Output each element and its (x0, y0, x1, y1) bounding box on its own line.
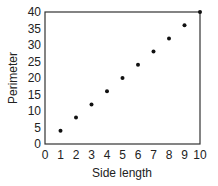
x-tick-label: 0 (42, 148, 49, 162)
data-point (59, 129, 63, 133)
scatter-chart: 0510152025303540 012345678910 Perimeter … (0, 0, 218, 186)
x-tick-label: 4 (104, 148, 111, 162)
y-tick-label: 0 (34, 137, 41, 151)
x-tick-label: 1 (57, 148, 64, 162)
y-tick-label: 20 (28, 71, 42, 85)
y-tick-label: 40 (28, 5, 42, 19)
y-tick-label: 15 (28, 88, 42, 102)
data-point (74, 116, 78, 120)
y-axis-ticks: 0510152025303540 (28, 5, 42, 151)
y-axis-label: Perimeter (6, 52, 20, 104)
data-point (136, 63, 140, 67)
data-point (121, 76, 125, 80)
data-point (152, 50, 156, 54)
data-points (59, 10, 203, 133)
data-point (90, 102, 94, 106)
y-tick-label: 25 (28, 55, 42, 69)
x-axis-label: Side length (92, 166, 152, 180)
x-tick-label: 8 (166, 148, 173, 162)
x-tick-label: 2 (73, 148, 80, 162)
x-tick-label: 7 (150, 148, 157, 162)
y-tick-label: 30 (28, 38, 42, 52)
x-tick-label: 5 (119, 148, 126, 162)
x-axis-ticks: 012345678910 (42, 148, 207, 162)
x-tick-label: 6 (135, 148, 142, 162)
x-tick-label: 9 (181, 148, 188, 162)
y-tick-label: 5 (34, 121, 41, 135)
data-point (198, 10, 202, 14)
x-tick-label: 10 (193, 148, 207, 162)
x-tick-label: 3 (88, 148, 95, 162)
data-point (167, 36, 171, 40)
y-tick-label: 10 (28, 104, 42, 118)
data-point (105, 89, 109, 93)
y-tick-label: 35 (28, 22, 42, 36)
data-point (183, 23, 187, 27)
